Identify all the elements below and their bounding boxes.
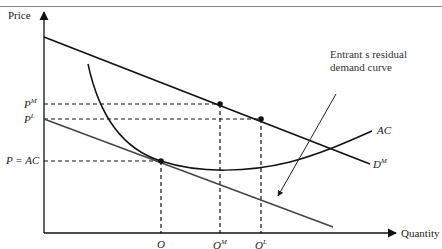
- residual-demand-annotation: Entrant s residual demand curve: [330, 48, 407, 74]
- guide-lines: [44, 104, 261, 233]
- market-demand-curve: [44, 37, 370, 164]
- price-label-monopoly: PM: [24, 97, 37, 110]
- market-demand-label: DM: [373, 157, 387, 170]
- annotation-arrow: [278, 94, 336, 196]
- price-label-limit: PL: [24, 112, 35, 125]
- tangency-point: [158, 158, 164, 164]
- quantity-label-monopoly: OM: [213, 238, 227, 249]
- limit-price-point: [258, 116, 264, 122]
- average-cost-curve: [88, 64, 372, 170]
- limit-pricing-diagram: [0, 0, 442, 249]
- average-cost-label: AC: [377, 124, 391, 136]
- residual-demand-curve: [44, 119, 333, 227]
- monopoly-point: [217, 101, 223, 107]
- quantity-label-o: O: [157, 238, 165, 249]
- quantity-label-limit: OL: [255, 238, 267, 249]
- x-axis-label: Quantity: [401, 227, 440, 239]
- price-label-ac: P = AC: [6, 154, 39, 166]
- y-axis-label: Price: [8, 9, 31, 21]
